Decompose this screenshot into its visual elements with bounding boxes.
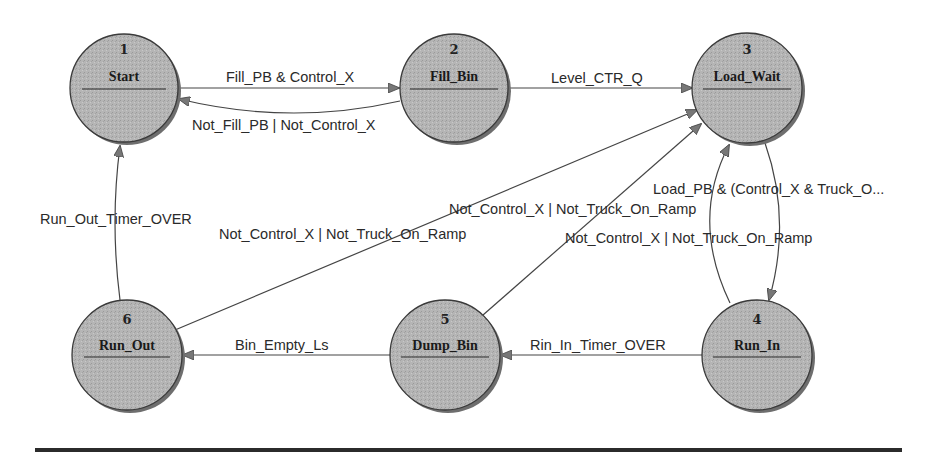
edge-label: Not_Fill_PB | Not_Control_X	[192, 117, 376, 133]
state-dump-bin[interactable]: 5 Dump_Bin	[390, 300, 503, 413]
state-name: Load_Wait	[714, 69, 781, 84]
edge-label: Not_Control_X | Not_Truck_On_Ramp	[219, 226, 466, 242]
edge-label: Run_Out_Timer_OVER	[40, 211, 192, 227]
edge-dump-bin-to-load-wait[interactable]	[483, 124, 701, 315]
state-name: Run_In	[734, 338, 780, 353]
state-number: 3	[742, 42, 751, 57]
state-run-in[interactable]: 4 Run_In	[702, 300, 815, 413]
edge-label: Level_CTR_Q	[551, 70, 643, 86]
state-number: 4	[752, 312, 761, 327]
edge-label: Not_Control_X | Not_Truck_On_Ramp	[449, 201, 696, 217]
edge-label: Bin_Empty_Ls	[235, 337, 329, 353]
state-name: Fill_Bin	[430, 69, 478, 84]
state-name: Start	[109, 69, 140, 84]
state-name: Run_Out	[99, 338, 155, 353]
edge-fill-bin-to-start[interactable]	[179, 99, 400, 113]
edge-label: Fill_PB & Control_X	[226, 69, 354, 85]
edge-run-in-to-load-wait[interactable]	[710, 145, 730, 303]
state-diagram: Fill_PB & Control_X Not_Fill_PB | Not_Co…	[0, 0, 932, 453]
state-run-out[interactable]: 6 Run_Out	[72, 300, 185, 413]
state-number: 6	[122, 312, 131, 327]
state-load-wait[interactable]: 3 Load_Wait	[692, 33, 805, 146]
edge-label: Rin_In_Timer_OVER	[530, 337, 666, 353]
edge-label: Not_Control_X | Not_Truck_On_Ramp	[565, 230, 812, 246]
bottom-rule-divider	[35, 448, 902, 452]
state-number: 5	[440, 312, 449, 327]
state-fill-bin[interactable]: 2 Fill_Bin	[400, 34, 511, 145]
state-number: 2	[449, 42, 458, 57]
state-start[interactable]: 1 Start	[70, 34, 181, 145]
state-number: 1	[119, 42, 128, 57]
state-name: Dump_Bin	[412, 338, 478, 353]
edge-load-wait-to-run-in[interactable]	[765, 143, 780, 300]
edge-run-out-to-load-wait[interactable]	[175, 110, 697, 330]
edge-label: Load_PB & (Control_X & Truck_O...	[653, 181, 884, 197]
